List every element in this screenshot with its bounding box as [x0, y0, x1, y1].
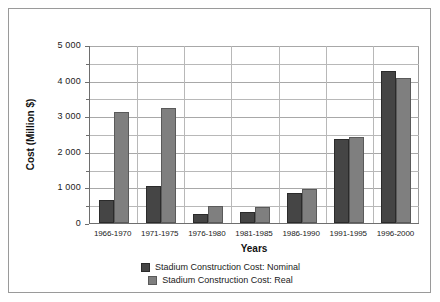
bar-nominal [287, 193, 302, 223]
x-axis-tick-label: 1976-1980 [183, 229, 230, 238]
plot-inner [90, 46, 419, 223]
y-axis-tick-mark [85, 224, 89, 225]
bar-nominal [193, 214, 208, 223]
y-axis-tick-label: 2 000 [9, 147, 81, 157]
bar-real [208, 206, 223, 223]
x-axis-tick-label: 1966-1970 [89, 229, 136, 238]
x-axis-tick-label: 1991-1995 [325, 229, 372, 238]
y-axis-tick-label: 3 000 [9, 111, 81, 121]
y-axis-tick-label: 0 [9, 218, 81, 228]
x-axis-title: Years [89, 243, 419, 254]
x-axis-tick-label: 1981-1985 [230, 229, 277, 238]
x-axis-tick-label: 1986-1990 [278, 229, 325, 238]
legend-item: Stadium Construction Cost: Nominal [141, 262, 300, 272]
chart-legend: Stadium Construction Cost: NominalStadiu… [9, 262, 432, 285]
bar-group [184, 46, 231, 223]
bar-real [161, 108, 176, 223]
bar-real [255, 207, 270, 223]
legend-swatch-nominal [141, 263, 150, 272]
bar-real [396, 78, 411, 223]
bar-group [137, 46, 184, 223]
bar-nominal [146, 186, 161, 223]
bar-nominal [334, 139, 349, 223]
legend-item: Stadium Construction Cost: Real [148, 275, 293, 285]
plot-area [89, 46, 419, 224]
y-axis-title-label: Cost (Million $) [26, 98, 37, 170]
bar-real [114, 112, 129, 223]
bar-group [326, 46, 373, 223]
bar-nominal [99, 200, 114, 223]
bar-group [373, 46, 420, 223]
bar-real [302, 189, 317, 223]
bar-group [231, 46, 278, 223]
bar-group [90, 46, 137, 223]
y-axis-tick-label: 4 000 [9, 76, 81, 86]
y-axis-tick-label: 5 000 [9, 40, 81, 50]
bar-nominal [240, 212, 255, 223]
chart-outer-frame: Cost (Million $) 01 0002 0003 0004 0005 … [8, 8, 431, 293]
legend-swatch-real [148, 276, 157, 285]
chart-figure: Cost (Million $) 01 0002 0003 0004 0005 … [0, 0, 440, 302]
legend-item-label: Stadium Construction Cost: Nominal [155, 262, 300, 272]
legend-item-label: Stadium Construction Cost: Real [162, 275, 293, 285]
x-axis-tick-label: 1996-2000 [372, 229, 419, 238]
bar-real [349, 137, 364, 224]
bar-nominal [381, 71, 396, 223]
bar-group [279, 46, 326, 223]
y-axis-tick-label: 1 000 [9, 182, 81, 192]
x-axis-tick-label: 1971-1975 [136, 229, 183, 238]
